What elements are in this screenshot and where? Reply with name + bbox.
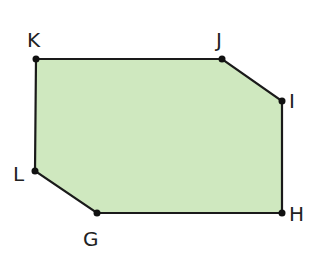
- vertex-k-label: K: [27, 28, 41, 52]
- vertex-j-point: [219, 56, 226, 63]
- vertex-l-point: [32, 168, 39, 175]
- vertex-g-point: [94, 210, 101, 217]
- vertex-h-point: [279, 210, 286, 217]
- vertex-g-label: G: [83, 227, 99, 251]
- vertex-j-label: J: [214, 28, 222, 52]
- hexagon-diagram: K J I H G L: [0, 0, 324, 256]
- vertex-l-label: L: [13, 162, 25, 186]
- vertex-k-point: [33, 56, 40, 63]
- vertex-i-point: [279, 98, 286, 105]
- vertex-i-label: I: [289, 89, 295, 113]
- hexagon-shape: [35, 59, 282, 213]
- vertex-h-label: H: [289, 202, 304, 226]
